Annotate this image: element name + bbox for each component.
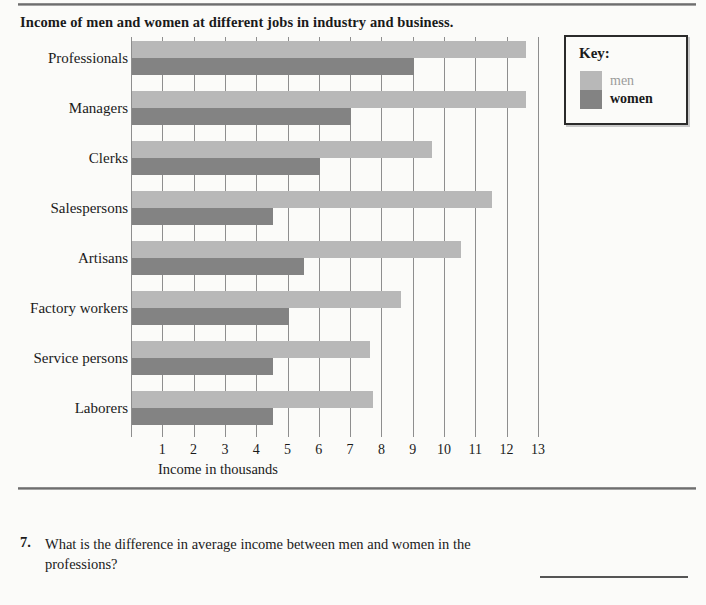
x-tick-5: 5 — [275, 442, 301, 458]
legend-label-women: women — [610, 91, 653, 107]
x-tick-3: 3 — [212, 442, 238, 458]
bar-men-service-persons — [132, 341, 370, 358]
bar-women-factory-workers — [132, 308, 289, 325]
top-divider-rule — [18, 3, 696, 6]
category-label-laborers: Laborers — [75, 400, 128, 417]
x-tick-11: 11 — [462, 442, 488, 458]
bar-women-laborers — [132, 408, 273, 425]
bar-women-salespersons — [132, 208, 273, 225]
chart-legend-key: Key: men women — [564, 35, 688, 125]
bar-men-managers — [132, 91, 526, 108]
x-tick-13: 13 — [525, 442, 551, 458]
legend-swatch-women — [580, 90, 602, 109]
category-label-artisans: Artisans — [78, 250, 128, 267]
bar-men-salespersons — [132, 191, 492, 208]
chart-title: Income of men and women at different job… — [20, 14, 453, 31]
category-label-salespersons: Salespersons — [51, 200, 129, 217]
x-tick-2: 2 — [181, 442, 207, 458]
gridline-13 — [538, 37, 539, 437]
x-tick-8: 8 — [368, 442, 394, 458]
bar-men-factory-workers — [132, 291, 401, 308]
bar-men-laborers — [132, 391, 373, 408]
question-text: What is the difference in average income… — [45, 534, 515, 574]
chart-plot-area — [131, 37, 538, 437]
category-label-professionals: Professionals — [48, 50, 128, 67]
question-number: 7. — [20, 534, 31, 551]
x-tick-4: 4 — [243, 442, 269, 458]
bar-men-artisans — [132, 241, 461, 258]
x-tick-6: 6 — [306, 442, 332, 458]
bar-women-clerks — [132, 158, 320, 175]
x-tick-1: 1 — [149, 442, 175, 458]
x-tick-12: 12 — [494, 442, 520, 458]
section-divider-rule — [18, 487, 696, 490]
bar-men-professionals — [132, 41, 526, 58]
bar-women-professionals — [132, 58, 414, 75]
x-axis-title: Income in thousands — [158, 461, 278, 478]
worksheet-page: Income of men and women at different job… — [0, 0, 706, 605]
answer-blank-line[interactable] — [540, 576, 688, 578]
bar-women-managers — [132, 108, 351, 125]
legend-heading: Key: — [579, 45, 610, 62]
x-tick-9: 9 — [400, 442, 426, 458]
category-label-service-persons: Service persons — [33, 350, 128, 367]
legend-swatch-men — [580, 71, 602, 90]
category-label-clerks: Clerks — [89, 150, 128, 167]
bar-men-clerks — [132, 141, 432, 158]
bar-women-service-persons — [132, 358, 273, 375]
x-tick-10: 10 — [431, 442, 457, 458]
category-label-factory-workers: Factory workers — [30, 300, 128, 317]
x-tick-7: 7 — [337, 442, 363, 458]
category-label-managers: Managers — [69, 100, 128, 117]
bar-women-artisans — [132, 258, 304, 275]
legend-label-men: men — [610, 73, 634, 89]
